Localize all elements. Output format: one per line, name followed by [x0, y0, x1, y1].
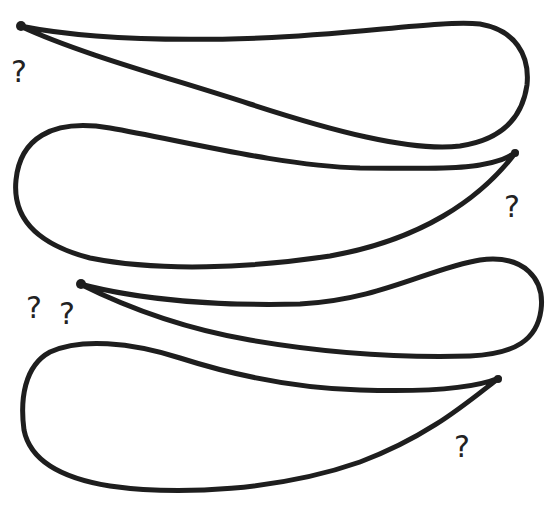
airfoil-tip-1 [16, 21, 26, 31]
question-mark-4: ? [59, 299, 75, 329]
question-mark-2: ? [504, 192, 520, 222]
airfoil-shape-3 [80, 259, 541, 356]
question-mark-1: ? [11, 57, 27, 87]
question-mark-3: ? [26, 293, 42, 323]
question-mark-5: ? [454, 432, 470, 462]
airfoil-tip-2 [511, 149, 519, 157]
airfoil-tip-3 [76, 279, 86, 289]
airfoil-tip-4 [494, 375, 502, 383]
airfoil-sketch-canvas [0, 0, 554, 506]
airfoil-shape-4 [23, 343, 499, 490]
